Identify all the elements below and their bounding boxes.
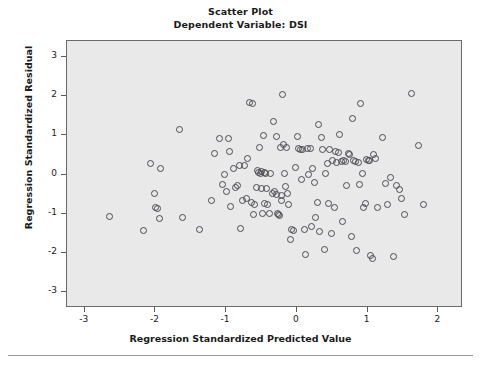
x-tick-label: -2 (139, 314, 169, 324)
data-point (335, 149, 342, 156)
data-point (349, 115, 356, 122)
data-point (312, 214, 319, 221)
data-point (314, 199, 321, 206)
data-point (106, 213, 113, 220)
y-tick-mark (61, 174, 66, 175)
x-tick-label: 1 (352, 314, 382, 324)
data-point (276, 212, 283, 219)
data-point (216, 135, 223, 142)
data-point (234, 182, 241, 189)
data-point (154, 205, 161, 212)
data-point (140, 227, 147, 234)
data-point (339, 218, 346, 225)
data-point (356, 181, 363, 188)
data-point (398, 195, 405, 202)
data-point (315, 121, 322, 128)
data-point (284, 190, 291, 197)
chart-subtitle: Dependent Variable: DSI (0, 18, 481, 31)
data-point (321, 246, 328, 253)
data-point (311, 179, 318, 186)
data-point (290, 227, 297, 234)
data-point (309, 165, 316, 172)
data-point (260, 132, 267, 139)
x-tick-label: 0 (281, 314, 311, 324)
data-point (147, 160, 154, 167)
data-point (292, 164, 299, 171)
data-point (379, 134, 386, 141)
data-point (225, 135, 232, 142)
data-point (282, 183, 289, 190)
data-point (250, 211, 257, 218)
data-point (415, 142, 422, 149)
x-tick-label: -1 (210, 314, 240, 324)
data-point (219, 181, 226, 188)
data-point (196, 226, 203, 233)
data-point (408, 90, 415, 97)
data-point (390, 253, 397, 260)
x-tick-mark (437, 307, 438, 312)
data-point (227, 203, 234, 210)
y-tick-mark (61, 56, 66, 57)
data-point (281, 170, 288, 177)
data-point (308, 223, 315, 230)
data-point (336, 131, 343, 138)
data-point (221, 171, 228, 178)
data-point (208, 197, 215, 204)
data-point (316, 228, 323, 235)
y-tick-label: -3 (29, 285, 57, 295)
data-point (387, 174, 394, 181)
data-point (382, 180, 389, 187)
data-point (156, 215, 163, 222)
scatter-plot-figure: Scatter Plot Dependent Variable: DSI -3-… (0, 0, 481, 367)
data-point (362, 200, 369, 207)
data-point (249, 100, 256, 107)
data-point (251, 201, 258, 208)
data-point (355, 159, 362, 166)
x-tick-label: 2 (422, 314, 452, 324)
data-point (319, 146, 326, 153)
data-point (244, 155, 251, 162)
data-point (279, 91, 286, 98)
data-point (420, 201, 427, 208)
data-point (348, 233, 355, 240)
data-point (264, 201, 271, 208)
data-point (287, 236, 294, 243)
data-point (396, 186, 403, 193)
y-tick-mark (61, 252, 66, 253)
data-point (285, 201, 292, 208)
data-point (223, 188, 230, 195)
data-point (256, 144, 263, 151)
data-point (237, 225, 244, 232)
data-point (372, 155, 379, 162)
data-point (318, 134, 325, 141)
data-point (270, 118, 277, 125)
data-point (211, 150, 218, 157)
x-tick-mark (84, 307, 85, 312)
data-point (307, 145, 314, 152)
bottom-divider (8, 355, 473, 356)
data-point (374, 204, 381, 211)
data-point (298, 176, 305, 183)
data-point (226, 148, 233, 155)
data-point (342, 158, 349, 165)
plot-panel (66, 40, 462, 307)
data-point (283, 144, 290, 151)
data-point (322, 170, 329, 177)
chart-title: Scatter Plot (0, 5, 481, 18)
data-point (343, 182, 350, 189)
data-point (273, 133, 280, 140)
data-point (369, 255, 376, 262)
x-tick-mark (225, 307, 226, 312)
x-tick-label: -3 (69, 314, 99, 324)
data-point (176, 126, 183, 133)
data-point (384, 201, 391, 208)
data-point (157, 165, 164, 172)
data-point (278, 197, 285, 204)
data-point (353, 247, 360, 254)
data-point (179, 214, 186, 221)
y-axis-title: Regression Standardized Residual (23, 18, 34, 258)
data-point (151, 190, 158, 197)
data-points-layer (67, 41, 461, 306)
data-point (266, 210, 273, 217)
y-tick-mark (61, 291, 66, 292)
